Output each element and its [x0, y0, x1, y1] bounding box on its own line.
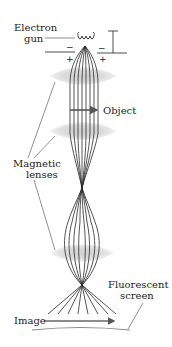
magnetic-lenses-label-line1: Magnetic — [13, 158, 61, 169]
electron-gun-label-line1: Electron — [14, 22, 58, 33]
projector-lens — [50, 244, 114, 262]
filament-icon — [78, 36, 94, 39]
object-label: Object — [103, 105, 136, 116]
objective-lens — [49, 122, 117, 140]
plus-sign-right: + — [99, 54, 107, 64]
minus-sign-right: − — [98, 43, 106, 53]
image-label: Image — [14, 315, 46, 326]
fluorescent-screen — [32, 328, 130, 331]
condenser-lens — [49, 67, 117, 85]
fluorescent-screen-label-line1: Fluorescent — [108, 279, 168, 290]
electron-beam — [48, 46, 116, 314]
electron-gun-label-line2: gun — [24, 33, 44, 44]
fluorescent-screen-label-line2: screen — [120, 290, 154, 301]
minus-sign-left: − — [66, 42, 74, 52]
electron-microscope-diagram: − − + + — [0, 0, 172, 347]
magnetic-lenses-label-line2: lenses — [26, 169, 58, 180]
plus-sign-left: + — [66, 54, 74, 64]
